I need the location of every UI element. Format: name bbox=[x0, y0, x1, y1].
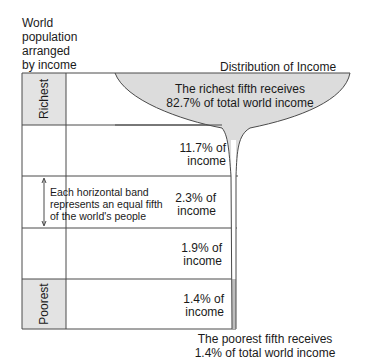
caption-line: 1.4% of total world income bbox=[165, 346, 365, 360]
band-height-arrow bbox=[42, 178, 46, 226]
note-line: represents an equal fifth bbox=[50, 198, 163, 210]
richest-label: Richest bbox=[37, 69, 51, 129]
caption-line: The poorest fifth receives bbox=[165, 332, 365, 346]
poorest-label: Poorest bbox=[37, 274, 51, 334]
poorest-caption: The poorest fifth receives 1.4% of total… bbox=[165, 332, 365, 360]
band4-income-label: 1.9% of income bbox=[150, 242, 222, 268]
richest-income-label: The richest fifth receives 82.7% of tota… bbox=[140, 82, 340, 110]
label-line: income bbox=[150, 306, 224, 319]
band2-income-label: 11.7% of income bbox=[150, 142, 226, 168]
note-line: of the world's people bbox=[50, 210, 163, 222]
band5-income-label: 1.4% of income bbox=[150, 293, 224, 319]
band-explanation-note: Each horizontal band represents an equal… bbox=[50, 186, 163, 222]
poorest-sliver bbox=[232, 279, 236, 329]
label-line: income bbox=[150, 155, 226, 168]
label-line: income bbox=[150, 255, 222, 268]
note-line: Each horizontal band bbox=[50, 186, 163, 198]
label-line: The richest fifth receives bbox=[140, 82, 340, 96]
label-line: 82.7% of total world income bbox=[140, 96, 340, 110]
